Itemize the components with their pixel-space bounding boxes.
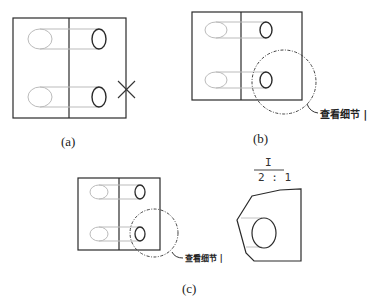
- panel-c-part-view: [78, 178, 160, 250]
- detail-label-c: 查看细节 |: [185, 252, 223, 263]
- caption-a: (a): [61, 134, 75, 150]
- panel-c-detail-circle: [130, 209, 183, 258]
- panel-b-part-view: [192, 12, 302, 100]
- detail-view-shape: [237, 189, 301, 261]
- caption-c: (c): [182, 281, 196, 297]
- detail-view-scale: 2 : 1: [258, 171, 291, 184]
- panel-b-detail-circle: [252, 50, 318, 114]
- detail-label-b: 查看细节 |: [320, 106, 367, 121]
- panel-a-part-view: [13, 18, 126, 118]
- detail-view-name: I: [265, 156, 272, 169]
- caption-b: (b): [253, 131, 268, 147]
